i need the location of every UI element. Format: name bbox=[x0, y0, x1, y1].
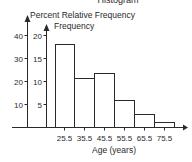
svg-text:10: 10 bbox=[14, 101, 23, 110]
x-axis-arrow-icon bbox=[183, 125, 188, 131]
svg-text:55.5: 55.5 bbox=[117, 134, 133, 143]
svg-text:35.5: 35.5 bbox=[77, 134, 93, 143]
bar-75.5 bbox=[155, 123, 175, 128]
bar-45.5 bbox=[95, 74, 115, 128]
bar-55.5 bbox=[115, 101, 135, 128]
x-tick-labels: 25.5 35.5 45.5 55.5 65.5 75.5 bbox=[57, 134, 173, 143]
bar-65.5 bbox=[135, 115, 155, 128]
histogram-chart: Histogram Percent Relative Frequency Fre… bbox=[0, 0, 192, 162]
svg-text:10: 10 bbox=[33, 78, 42, 87]
frequency-axis-arrow-icon bbox=[44, 24, 50, 31]
frequency-ticks: 5 10 15 20 bbox=[33, 32, 46, 110]
svg-text:45.5: 45.5 bbox=[97, 134, 113, 143]
svg-text:25.5: 25.5 bbox=[57, 134, 73, 143]
frequency-axis-label: Frequency bbox=[54, 21, 95, 31]
bar-25.5 bbox=[56, 45, 75, 128]
percent-axis-label: Percent Relative Frequency bbox=[30, 10, 136, 20]
svg-text:40: 40 bbox=[14, 32, 23, 41]
chart-title: Histogram bbox=[97, 0, 138, 5]
svg-text:30: 30 bbox=[14, 55, 23, 64]
bar-35.5 bbox=[75, 79, 95, 128]
svg-text:65.5: 65.5 bbox=[137, 134, 153, 143]
svg-text:15: 15 bbox=[33, 55, 42, 64]
svg-text:20: 20 bbox=[14, 78, 23, 87]
x-axis-label: Age (years) bbox=[92, 145, 136, 155]
svg-text:20: 20 bbox=[33, 32, 42, 41]
svg-text:75.5: 75.5 bbox=[157, 134, 173, 143]
svg-text:5: 5 bbox=[38, 101, 43, 110]
percent-ticks: 10 20 30 40 bbox=[14, 32, 27, 110]
histogram-bars bbox=[56, 45, 175, 128]
